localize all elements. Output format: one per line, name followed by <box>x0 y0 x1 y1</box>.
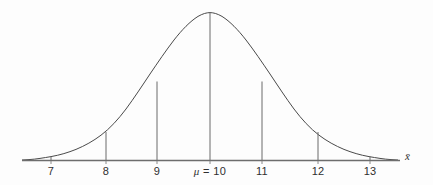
mu-symbol: μ <box>194 165 200 177</box>
mean-equals-sign: = <box>203 165 210 177</box>
distribution-plot-svg <box>0 0 433 185</box>
mean-value: 10 <box>213 165 226 177</box>
x-tick-label-12: 12 <box>312 165 325 177</box>
x-tick-label-8: 8 <box>103 165 109 177</box>
mean-label: μ = 10 <box>194 165 227 177</box>
x-tick-label-13: 13 <box>364 165 377 177</box>
normal-distribution-figure: 7 8 9 μ = 10 11 12 13 x̄ <box>0 0 433 185</box>
x-tick-label-7: 7 <box>48 165 54 177</box>
x-tick-label-9: 9 <box>154 165 160 177</box>
x-tick-label-11: 11 <box>256 165 268 177</box>
x-axis-label: x̄ <box>405 150 410 162</box>
